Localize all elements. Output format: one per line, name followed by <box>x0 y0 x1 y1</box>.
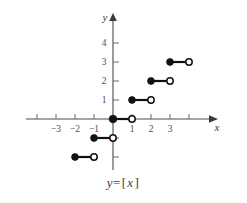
x-tick-label--1: −1 <box>89 124 99 134</box>
open-point-3-2 <box>167 78 173 84</box>
caption-bracket-close: ] <box>134 175 141 190</box>
closed-point-3-3 <box>167 59 174 66</box>
open-point--1--2 <box>91 154 97 160</box>
closed-point-1-1 <box>129 97 136 104</box>
closed-point--1--1 <box>91 135 98 142</box>
figure-caption: y=[x] <box>0 175 247 191</box>
open-point-2-1 <box>148 97 154 103</box>
closed-point-2-2 <box>148 78 155 85</box>
step-segments <box>75 62 189 157</box>
y-tick-label-3: 3 <box>102 57 107 67</box>
y-axis-arrowhead <box>109 13 117 21</box>
x-tick-label-1: 1 <box>130 124 135 134</box>
x-tick-label--3: −3 <box>51 124 61 134</box>
x-tick-label-2: 2 <box>149 124 154 134</box>
y-axis-label: y <box>102 11 108 23</box>
open-point-4-3 <box>186 59 192 65</box>
y-tick-labels: 4 3 2 1 <box>102 38 107 105</box>
y-tick-label-2: 2 <box>102 76 107 86</box>
open-endpoints <box>91 59 192 160</box>
step-function-figure: −3 −2 −1 1 2 3 4 3 2 1 y x <box>0 0 247 203</box>
x-axis-label: x <box>214 121 220 133</box>
x-tick-label-3: 3 <box>168 124 173 134</box>
graph-canvas: −3 −2 −1 1 2 3 4 3 2 1 y x <box>0 0 247 203</box>
y-tick-label-1: 1 <box>102 95 107 105</box>
caption-argument: x <box>127 175 133 190</box>
open-point-1-0 <box>129 116 135 122</box>
closed-endpoints <box>72 59 174 161</box>
x-tick-label--2: −2 <box>70 124 80 134</box>
open-point-0--1 <box>110 135 116 141</box>
closed-point-0-0 <box>109 115 117 123</box>
axes-group <box>26 13 218 170</box>
y-tick-label-4: 4 <box>102 38 107 48</box>
x-tick-labels: −3 −2 −1 1 2 3 <box>51 124 173 134</box>
caption-equals: = <box>113 175 121 190</box>
closed-point--2--2 <box>72 154 79 161</box>
